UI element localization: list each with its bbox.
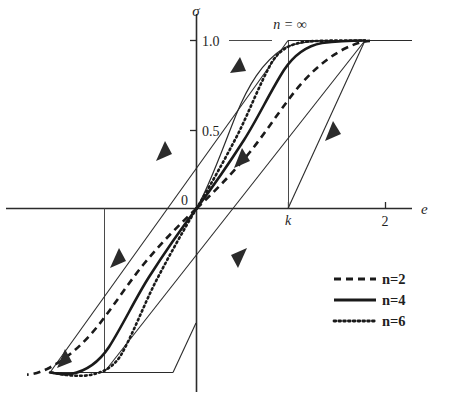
legend-label-n4: n=4: [382, 292, 406, 308]
flow-arrow-ascending-outer-lower: [110, 248, 126, 268]
flow-arrow-virgin-curve: [230, 57, 246, 73]
legend-item-n6: n=6: [334, 313, 406, 329]
hysteresis-plot: σ e 1.0 0.5 0 k 2: [0, 0, 449, 398]
x-tick-label-2: 2: [382, 214, 389, 229]
figure-container: σ e 1.0 0.5 0 k 2: [0, 0, 449, 398]
y-tick-label-0.5: 0.5: [202, 124, 220, 139]
curve-n6-ascending: [197, 40, 366, 208]
x-axis-label: e: [421, 201, 428, 217]
flow-arrow-ascending-outer-upper: [156, 141, 172, 161]
legend-label-n6: n=6: [382, 313, 406, 329]
loop-descending-outer-branch: [104, 41, 365, 373]
flow-arrow-ascending-outer-bottom: [57, 349, 72, 368]
curve-n4-ascending: [197, 41, 366, 209]
virgin-loading-curve: [197, 40, 366, 208]
legend: n=2 n=4 n=6: [334, 271, 406, 329]
legend-item-n2: n=2: [334, 271, 406, 287]
x-tick-label-k: k: [285, 213, 292, 228]
flow-arrow-descending: [231, 248, 247, 268]
loop-ascending-outer-branch: [50, 41, 288, 373]
flow-arrow-ascending-right: [325, 121, 341, 141]
legend-item-n4: n=4: [334, 292, 406, 308]
curve-n2-descending: [27, 209, 197, 375]
legend-label-n2: n=2: [382, 271, 406, 287]
annotation-n-infinity: n = ∞: [273, 17, 306, 32]
origin-label: 0: [181, 193, 188, 208]
y-axis-label: σ: [192, 3, 200, 19]
y-tick-label-1.0: 1.0: [202, 34, 220, 49]
curve-n2-ascending: [197, 41, 371, 209]
loop-lower-elastic-segment: [173, 323, 196, 373]
